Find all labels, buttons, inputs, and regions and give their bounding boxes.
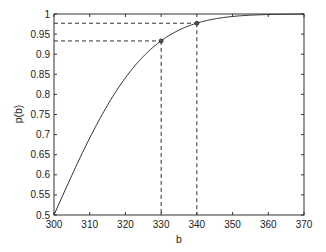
y-tick-label: 0.8 [36, 89, 50, 100]
x-tick-label: 320 [117, 219, 134, 230]
dashed-guides [54, 23, 197, 215]
y-axis-label: p(b) [12, 105, 24, 124]
y-tick-label: 0.65 [31, 149, 51, 160]
y-tick-label: 0.95 [31, 29, 51, 40]
x-tick-label: 360 [260, 219, 277, 230]
data-marker [159, 39, 163, 43]
x-tick-label: 350 [224, 219, 241, 230]
y-tick-label: 0.9 [36, 49, 50, 60]
y-tick-label: 1 [44, 9, 50, 20]
y-tick-label: 0.5 [36, 210, 50, 221]
y-tick-label: 0.85 [31, 69, 51, 80]
cdf-chart: 300310320330340350360370 0.50.550.60.650… [0, 0, 326, 252]
cdf-curve [54, 14, 304, 215]
x-tick-label: 300 [46, 219, 63, 230]
x-tick-label: 370 [296, 219, 313, 230]
y-tick-label: 0.55 [31, 189, 51, 200]
x-tick-label: 330 [153, 219, 170, 230]
x-tick-label: 310 [81, 219, 98, 230]
x-ticks: 300310320330340350360370 [46, 14, 313, 230]
y-ticks: 0.50.550.60.650.70.750.80.850.90.951 [31, 9, 304, 221]
y-tick-label: 0.75 [31, 109, 51, 120]
y-tick-label: 0.6 [36, 169, 50, 180]
y-tick-label: 0.7 [36, 129, 50, 140]
data-marker [195, 21, 199, 25]
x-tick-label: 340 [189, 219, 206, 230]
x-axis-label: b [176, 233, 182, 245]
plot-frame [54, 14, 304, 215]
